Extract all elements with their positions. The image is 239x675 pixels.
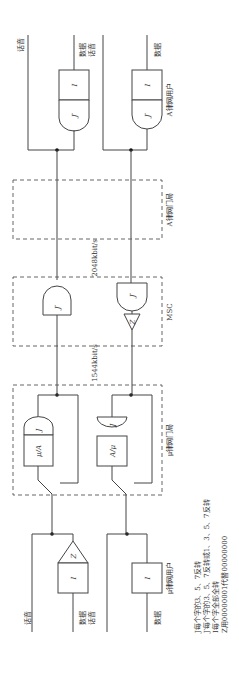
jp-label-msc-r: J′ — [129, 292, 137, 299]
jp-label-tr: J′ — [144, 112, 152, 119]
i-label-tl: I — [71, 83, 79, 87]
a-law-user-label: A律网用户 — [165, 83, 174, 117]
voice-label-top-left2: 话音 — [87, 43, 96, 57]
legend-line-3: I每个字全部全转 — [211, 581, 220, 633]
z-label-bl: Z — [70, 553, 78, 559]
z-gate-bottom-left — [58, 541, 88, 563]
jp-label-tl: J′ — [71, 112, 79, 119]
data-label-bottom-left: 数据 — [78, 611, 87, 625]
signal-conversion-diagram: I J′ I J′ J′ J′ Z J μ/A J A/μ Z I I 话音 数… — [0, 0, 239, 675]
i-label-br: I — [144, 576, 152, 580]
rate-2048-label: 2048kbit/s — [91, 239, 99, 277]
legend-line-4: Z用00000001代替00000000 — [220, 536, 229, 633]
mu-law-gateway-label: μ律网门局 — [165, 424, 174, 457]
data-label-bottom-right: 数据 — [153, 611, 162, 625]
top-right-user-group — [103, 35, 162, 283]
msc-label: MSC — [166, 303, 174, 320]
voice-label-bottom-left2: 话音 — [87, 611, 96, 625]
legend-line-1: J每个字的3、5、7反转 — [193, 561, 202, 634]
amu-label: A/μ — [109, 445, 117, 458]
voice-label-bottom: 话音 — [23, 611, 32, 625]
i-label-bl: I — [70, 576, 78, 580]
jp-label-msc-l: J′ — [54, 304, 62, 311]
z-label-msc: Z — [129, 319, 137, 325]
top-left-user-group — [28, 35, 89, 280]
data-label-top-right: 数据 — [153, 43, 162, 57]
mua-label: μ/A — [35, 445, 43, 457]
rate-1544-label: 1544kbit/s — [91, 344, 99, 382]
voice-label-top: 话音 — [16, 38, 25, 52]
mu-law-user-label: μ律网用户 — [165, 562, 174, 595]
a-law-gateway-label: A律网门局 — [165, 193, 174, 227]
jprime-gate-msc-left — [43, 286, 71, 315]
data-label-top-left: 数据 — [78, 43, 87, 57]
i-label-tr: I — [144, 83, 152, 87]
a-law-gateway-box — [13, 180, 162, 239]
legend-line-2: J′每个字的3、5、7反转或1、3、5、7反转 — [202, 499, 211, 634]
